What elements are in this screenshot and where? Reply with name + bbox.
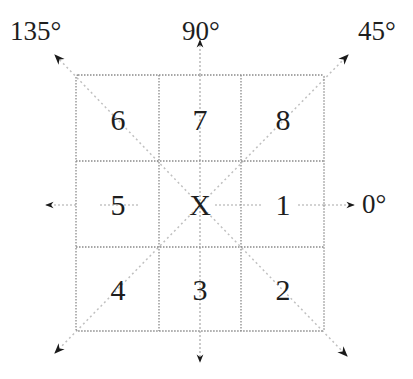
cell-7: 7	[180, 103, 220, 137]
cell-3: 3	[180, 273, 220, 307]
cell-center-x: X	[180, 188, 220, 222]
cell-1: 1	[263, 188, 303, 222]
cell-2: 2	[263, 273, 303, 307]
cell-5: 5	[98, 188, 138, 222]
angle-label-45: 45°	[358, 16, 396, 46]
direction-diagram: 6 7 8 5 X 1 4 3 2 135° 90° 45° 0°	[0, 0, 413, 379]
cell-8: 8	[263, 103, 303, 137]
angle-label-135: 135°	[10, 16, 61, 46]
cell-4: 4	[98, 273, 138, 307]
angle-label-90: 90°	[182, 16, 220, 46]
angle-label-0: 0°	[362, 189, 386, 219]
cell-6: 6	[98, 103, 138, 137]
